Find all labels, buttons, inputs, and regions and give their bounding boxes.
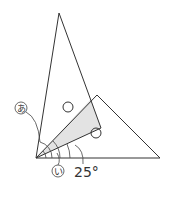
angle-value-25: 25° xyxy=(74,164,99,180)
leader-line-a xyxy=(26,112,40,142)
leader-line-25 xyxy=(75,145,83,164)
label-i: い xyxy=(54,167,63,177)
circle-marker-1 xyxy=(63,102,73,112)
label-a: あ xyxy=(17,104,26,114)
angle-arc-25 xyxy=(67,144,70,158)
geometry-diagram: あ い 25° xyxy=(0,0,169,199)
leader-line-i xyxy=(57,153,59,165)
